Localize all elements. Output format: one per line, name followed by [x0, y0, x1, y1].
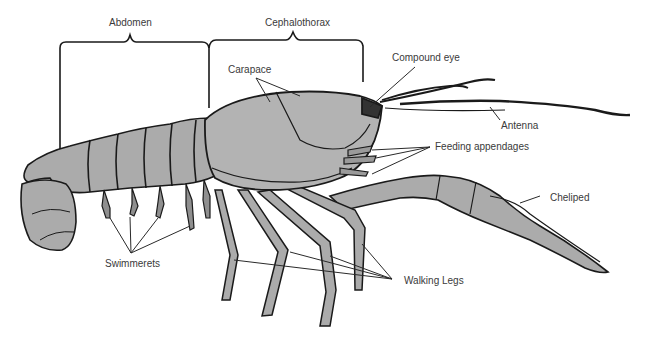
label-swimmerets: Swimmerets [105, 259, 160, 269]
antennae [380, 79, 630, 115]
crayfish-illustration [0, 0, 648, 349]
crayfish-anatomy-diagram: Abdomen Cephalothorax Carapace Compound … [0, 0, 648, 349]
label-carapace: Carapace [228, 65, 271, 75]
label-compound-eye: Compound eye [392, 53, 460, 63]
cheliped-shape [330, 175, 608, 272]
label-cheliped: Cheliped [550, 193, 589, 203]
walking-legs-shapes [215, 186, 365, 326]
label-feeding-appendages: Feeding appendages [435, 142, 529, 152]
label-abdomen: Abdomen [109, 18, 152, 28]
label-walking-legs: Walking Legs [404, 276, 464, 286]
label-cephalothorax: Cephalothorax [265, 18, 330, 28]
label-antenna: Antenna [501, 121, 538, 131]
